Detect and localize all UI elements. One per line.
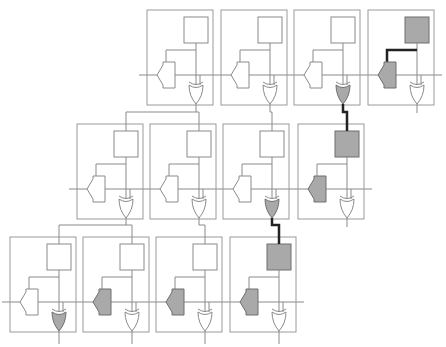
register-square	[184, 17, 208, 43]
xor-gate	[272, 312, 286, 331]
pentagon-gate	[231, 62, 249, 88]
cell	[223, 124, 289, 219]
cell	[83, 237, 149, 332]
cell	[230, 237, 296, 332]
cell	[150, 124, 216, 219]
pentagon-gate	[166, 289, 184, 315]
cell	[294, 10, 360, 105]
square-to-pentagon-wire	[240, 50, 270, 62]
register-square	[114, 131, 138, 157]
square-to-pentagon-wire	[313, 50, 343, 62]
pentagon-gate	[160, 176, 178, 202]
register-square	[267, 244, 291, 270]
pentagon-gate	[304, 62, 322, 88]
xor-gate	[189, 85, 203, 104]
cell	[368, 10, 434, 105]
cell	[156, 237, 222, 332]
pentagon-gate	[87, 176, 105, 202]
square-to-pentagon-wire	[166, 50, 196, 62]
square-to-pentagon-wire	[96, 164, 126, 176]
register-square	[335, 131, 359, 157]
square-to-pentagon-wire	[102, 277, 132, 289]
square-to-pentagon-wire	[249, 277, 279, 289]
inter-row-link-branch	[126, 112, 196, 131]
pentagon-gate	[233, 176, 251, 202]
cell	[10, 237, 76, 332]
xor-gate	[52, 312, 66, 331]
pentagon-gate	[157, 62, 175, 88]
register-square	[47, 244, 71, 270]
inter-row-link	[270, 104, 272, 131]
cell-array-diagram	[0, 0, 446, 347]
square-to-pentagon-wire	[175, 277, 205, 289]
cell	[221, 10, 287, 105]
register-square	[260, 131, 284, 157]
register-square	[187, 131, 211, 157]
inter-row-link	[199, 218, 205, 244]
square-to-pentagon-wire	[169, 164, 199, 176]
xor-gate	[340, 199, 354, 218]
pentagon-gate	[378, 62, 396, 88]
inter-row-link	[196, 104, 199, 131]
inter-row-link	[343, 104, 347, 131]
register-square	[258, 17, 282, 43]
pentagon-gate	[93, 289, 111, 315]
xor-gate	[198, 312, 212, 331]
xor-gate	[119, 199, 133, 218]
register-square	[405, 17, 429, 43]
xor-gate	[192, 199, 206, 218]
inter-row-link-branch	[59, 225, 126, 244]
pentagon-gate	[20, 289, 38, 315]
pentagon-gate	[240, 289, 258, 315]
inter-row-link	[272, 218, 279, 244]
xor-gate	[125, 312, 139, 331]
inter-row-link	[126, 218, 132, 244]
register-square	[193, 244, 217, 270]
register-square	[120, 244, 144, 270]
register-square	[331, 17, 355, 43]
cell	[77, 124, 143, 219]
xor-gate	[410, 85, 424, 104]
square-to-pentagon-wire	[317, 164, 347, 176]
square-to-pentagon-wire	[242, 164, 272, 176]
xor-gate	[265, 199, 279, 218]
square-to-pentagon-wire	[387, 50, 417, 62]
cell	[147, 10, 213, 105]
square-to-pentagon-wire	[29, 277, 59, 289]
xor-gate	[263, 85, 277, 104]
xor-gate	[336, 85, 350, 104]
cell	[298, 124, 364, 219]
pentagon-gate	[308, 176, 326, 202]
